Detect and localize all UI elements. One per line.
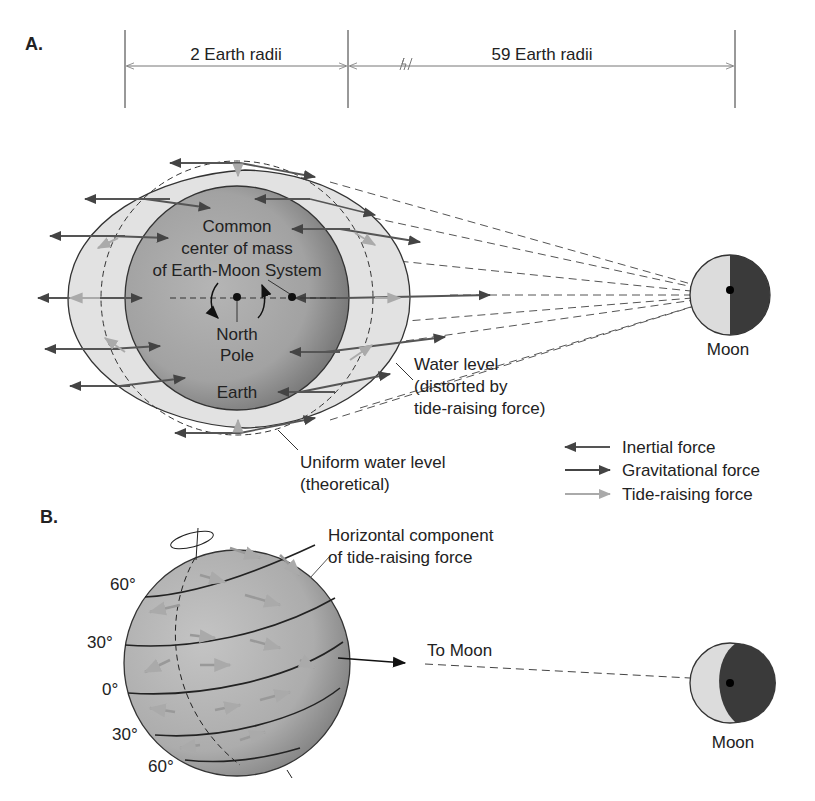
center-label-3: of Earth-Moon System <box>152 261 321 280</box>
legend-gravitational: Gravitational force <box>622 461 760 480</box>
legend-tide-raising: Tide-raising force <box>622 485 753 504</box>
horiz-leader <box>310 556 330 578</box>
legend: Inertial force Gravitational force Tide-… <box>565 438 760 504</box>
to-moon-line <box>425 664 690 678</box>
dim-right-label: 59 Earth radii <box>491 45 592 64</box>
uniform-label-2: (theoretical) <box>300 475 390 494</box>
moon-label-a: Moon <box>707 340 750 359</box>
distance-scale: 2 Earth radii 59 Earth radii <box>125 30 735 108</box>
lat-0: 0° <box>102 680 118 699</box>
lat-60n: 60° <box>110 575 136 594</box>
to-moon-label: To Moon <box>427 641 492 660</box>
tides-diagram: A. 2 Earth radii 59 Earth radii <box>0 0 815 801</box>
uniform-leader <box>278 430 298 450</box>
north-pole-label-2: Pole <box>220 346 254 365</box>
water-label-2: (distorted by <box>414 377 508 396</box>
legend-inertial: Inertial force <box>622 438 716 457</box>
water-label-3: tide-raising force) <box>414 399 545 418</box>
water-leader <box>396 363 413 380</box>
water-label-1: Water level <box>414 355 498 374</box>
moon-b <box>690 643 776 723</box>
panel-a-label: A. <box>25 34 43 54</box>
dim-left-label: 2 Earth radii <box>190 45 282 64</box>
earth-label: Earth <box>217 383 258 402</box>
horiz-label-2: of tide-raising force <box>328 548 473 567</box>
moon-label-b: Moon <box>712 733 755 752</box>
lat-30s: 30° <box>112 725 138 744</box>
panel-b-label: B. <box>40 507 58 527</box>
uniform-label-1: Uniform water level <box>300 453 446 472</box>
lat-60s: 60° <box>148 757 174 776</box>
horiz-label-1: Horizontal component <box>328 526 494 545</box>
lat-30n: 30° <box>87 633 113 652</box>
center-label-1: Common <box>203 217 272 236</box>
north-pole-label-1: North <box>216 325 258 344</box>
center-label-2: center of mass <box>181 239 293 258</box>
moon-a <box>690 255 770 335</box>
